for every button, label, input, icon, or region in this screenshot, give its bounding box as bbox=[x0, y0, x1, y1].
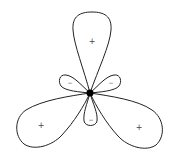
lobe-bottom-right-positive bbox=[90, 93, 162, 148]
sign-bottom: − bbox=[88, 116, 93, 123]
lobe-top-positive bbox=[73, 12, 111, 93]
orbital-diagram: + + + − − − bbox=[0, 0, 173, 162]
sign-top: + bbox=[89, 37, 96, 46]
lobe-bottom-left-positive bbox=[17, 93, 90, 147]
lobe-upper-right-negative bbox=[90, 75, 121, 93]
sign-bottom-right: + bbox=[136, 123, 143, 132]
sign-bottom-left: + bbox=[38, 121, 45, 130]
sign-upper-right: − bbox=[108, 79, 113, 86]
nucleus-dot bbox=[87, 90, 94, 97]
sign-upper-left: − bbox=[67, 79, 72, 86]
